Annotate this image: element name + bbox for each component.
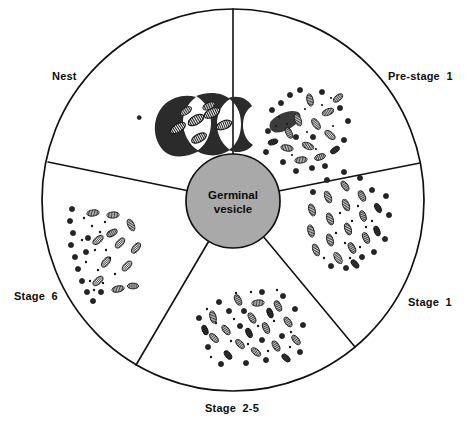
germinal-vesicle-label-line2: vesicle bbox=[214, 203, 252, 215]
radial-sector-diagram: Germinal vesicle bbox=[0, 0, 472, 424]
germinal-vesicle-circle bbox=[186, 154, 280, 248]
germinal-vesicle-label-line1: Germinal bbox=[208, 189, 258, 201]
sector-label-stage-1: Stage 1 bbox=[408, 296, 452, 308]
sector-label-nest: Nest bbox=[52, 70, 77, 82]
sector-label-pre-stage-1: Pre-stage 1 bbox=[388, 70, 453, 82]
sector-label-stage-6: Stage 6 bbox=[14, 290, 58, 302]
sector-label-stage-2-5: Stage 2-5 bbox=[205, 402, 259, 414]
diagram-canvas: Germinal vesicle Nest Pre-stage 1 Stage … bbox=[0, 0, 472, 424]
